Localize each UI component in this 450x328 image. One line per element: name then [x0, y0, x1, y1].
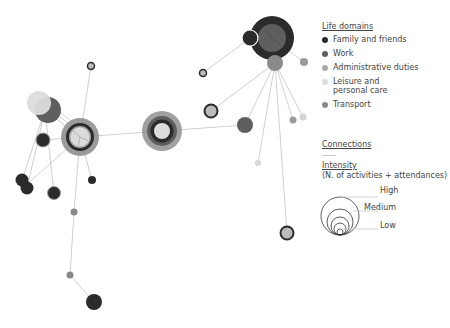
node-left-hub — [61, 118, 99, 156]
family-dot-icon — [322, 37, 328, 43]
transport-dot-icon — [322, 102, 328, 108]
node-ring-left — [205, 105, 218, 118]
node-transport-1 — [71, 209, 78, 216]
node-transport-side — [300, 58, 308, 66]
size-label-high: High — [380, 186, 398, 195]
node-work-mid — [237, 117, 253, 133]
node-top-left-small — [88, 63, 95, 70]
node-family-5 — [88, 176, 96, 184]
node-transport-3 — [290, 117, 297, 124]
work-dot-icon — [322, 51, 328, 57]
node-ring-bottom — [281, 227, 294, 240]
node-left-overlap — [27, 91, 61, 123]
legend-item-leisure: Leisure and personal care — [322, 77, 402, 95]
node-family-4 — [48, 187, 61, 200]
leisure-dot-icon — [322, 79, 328, 85]
administrative-dot-icon — [322, 65, 328, 71]
edges — [22, 38, 304, 302]
connection-line-sample — [322, 155, 336, 156]
intensity-subtitle: (N. of activities + attendances) — [322, 171, 447, 181]
node-small-ring — [200, 70, 207, 77]
node-family-bottom — [86, 294, 102, 310]
connections-title: Connections — [322, 140, 447, 149]
legend-item-administrative: Administrative duties — [322, 63, 450, 72]
legend-item-transport: Transport — [322, 100, 450, 109]
size-label-medium: Medium — [364, 203, 396, 212]
node-transport-top — [267, 55, 283, 71]
node-center-hub — [142, 111, 182, 151]
intensity-title: Intensity — [322, 161, 447, 171]
node-leisure-2 — [255, 160, 261, 166]
node-leisure-1 — [300, 114, 307, 121]
node-family-top — [242, 30, 258, 46]
life-domains-legend: Life domains Family and friends Work Adm… — [322, 22, 450, 114]
legend-title: Life domains — [322, 22, 450, 31]
legend-item-family: Family and friends — [322, 35, 450, 44]
size-label-low: Low — [380, 221, 396, 230]
legend-item-work: Work — [322, 49, 450, 58]
connections-legend: Connections Intensity (N. of activities … — [322, 140, 447, 181]
node-family-3 — [21, 182, 34, 195]
node-family-1 — [36, 133, 50, 147]
node-transport-2 — [67, 272, 74, 279]
